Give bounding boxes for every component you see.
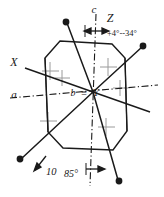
label-optic-x: X (9, 55, 18, 69)
label-angle-top-right: +4°--34° (107, 28, 137, 38)
endpoint-dot-upper-right (140, 43, 147, 50)
label-angle-bottom-right: 85° (64, 168, 78, 179)
label-center-equivalence: ≡ (81, 87, 87, 98)
angle-arrow-bottom-left (34, 156, 46, 171)
endpoint-dot-lower-left (17, 156, 24, 163)
angle-arrow-top (84, 28, 109, 34)
label-center-b: b (71, 87, 76, 98)
leader-line-x-extension (93, 92, 150, 112)
line-lower-right (93, 92, 118, 180)
diagram-canvas: c Z +4°--34° X a b ≡ Y 10 85° (0, 0, 164, 197)
endpoint-dots (17, 19, 147, 185)
line-z-upper-right (93, 47, 142, 92)
endpoint-dot-upper-left (63, 19, 70, 26)
label-angle-bottom-value: 10 (46, 166, 57, 177)
label-axis-c: c (92, 3, 97, 15)
label-center-y: Y (93, 87, 100, 98)
label-axis-a: a (11, 88, 17, 100)
vibration-direction-lines (21, 23, 142, 180)
endpoint-dot-lower-right (116, 178, 123, 185)
crystal-orientation-figure: c Z +4°--34° X a b ≡ Y 10 85° (0, 0, 164, 197)
label-optic-z: Z (107, 11, 114, 25)
angle-arrow-bottom-right (86, 163, 105, 175)
